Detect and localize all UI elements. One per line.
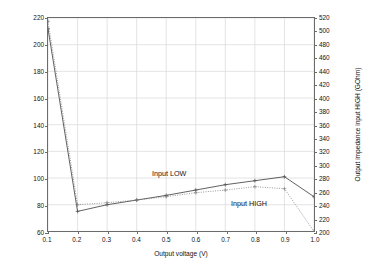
tick-mark	[256, 231, 257, 234]
tick-mark	[314, 152, 317, 153]
tick-mark	[45, 45, 48, 46]
y-tick-right-label: 280	[319, 175, 330, 182]
tick-mark	[314, 99, 317, 100]
data-point-marker	[135, 198, 139, 202]
x-tick-label: 1.0	[311, 236, 320, 243]
tick-mark	[314, 85, 317, 86]
plot-area	[47, 17, 315, 232]
y-tick-left-label: 180	[33, 67, 44, 74]
y-axis-left-ticks: 6080100120140160180200220	[20, 17, 44, 232]
y-tick-left-label: 160	[33, 94, 44, 101]
data-point-marker	[253, 185, 257, 189]
y-tick-right-label: 340	[319, 134, 330, 141]
tick-mark	[78, 231, 79, 234]
x-tick-label: 0.2	[72, 236, 81, 243]
tick-mark	[314, 126, 317, 127]
y-tick-right-label: 360	[319, 121, 330, 128]
x-tick-label: 0.6	[191, 236, 200, 243]
tick-mark	[45, 99, 48, 100]
x-tick-label: 0.1	[43, 236, 52, 243]
tick-mark	[45, 18, 48, 19]
series-input-high	[48, 19, 314, 231]
tick-mark	[314, 220, 317, 221]
data-point-marker	[223, 188, 227, 192]
x-tick-label: 0.9	[281, 236, 290, 243]
y-tick-right-label: 260	[319, 188, 330, 195]
y-tick-right-label: 400	[319, 94, 330, 101]
tick-mark	[227, 231, 228, 234]
x-tick-label: 0.4	[132, 236, 141, 243]
y-tick-left-label: 60	[37, 229, 44, 236]
tick-mark	[167, 231, 168, 234]
y-tick-right-label: 240	[319, 202, 330, 209]
data-point-marker	[253, 179, 257, 183]
tick-mark	[314, 58, 317, 59]
tick-mark	[286, 231, 287, 234]
y-tick-right-label: 320	[319, 148, 330, 155]
x-tick-label: 0.3	[102, 236, 111, 243]
y-tick-right-label: 380	[319, 108, 330, 115]
x-tick-label: 0.7	[221, 236, 230, 243]
series-annotation-input-low: Input LOW	[152, 169, 186, 178]
y-tick-left-label: 80	[37, 202, 44, 209]
y-tick-left-label: 100	[33, 175, 44, 182]
tick-mark	[314, 179, 317, 180]
series-input-low	[48, 27, 314, 213]
tick-mark	[48, 231, 49, 234]
tick-mark	[314, 206, 317, 207]
y-tick-right-label: 300	[319, 161, 330, 168]
data-point-marker	[194, 191, 198, 195]
tick-mark	[45, 126, 48, 127]
data-point-marker	[76, 209, 80, 213]
tick-mark	[314, 139, 317, 140]
tick-mark	[197, 231, 198, 234]
y-tick-right-label: 520	[319, 14, 330, 21]
x-axis-ticks: 0.10.20.30.40.50.60.70.80.91.0	[47, 236, 315, 248]
y-tick-left-label: 140	[33, 121, 44, 128]
tick-mark	[314, 31, 317, 32]
y-axis-right-ticks: 2002202402602803003203403603804004204404…	[319, 17, 345, 232]
tick-mark	[314, 193, 317, 194]
tick-mark	[45, 72, 48, 73]
y-tick-right-label: 200	[319, 229, 330, 236]
tick-mark	[108, 231, 109, 234]
tick-mark	[314, 72, 317, 73]
data-point-marker	[105, 201, 109, 205]
data-series-layer	[48, 18, 314, 231]
y-tick-right-label: 420	[319, 81, 330, 88]
tick-mark	[316, 231, 317, 234]
y-tick-right-label: 220	[319, 215, 330, 222]
x-tick-label: 0.5	[162, 236, 171, 243]
tick-mark	[45, 152, 48, 153]
x-axis-title: Output voltage (V)	[47, 250, 315, 257]
y-tick-left-label: 200	[33, 40, 44, 47]
data-point-marker	[223, 183, 227, 187]
y-tick-right-label: 480	[319, 40, 330, 47]
tick-mark	[314, 45, 317, 46]
chart-figure: Output impedance input LOW (GOhm) Output…	[0, 0, 371, 276]
y-tick-left-label: 120	[33, 148, 44, 155]
y-tick-left-label: 220	[33, 14, 44, 21]
tick-mark	[45, 206, 48, 207]
y-axis-right-title: Output impedance input HIGH (GOhm)	[353, 17, 371, 232]
series-annotation-input-high: Input HIGH	[231, 199, 267, 208]
y-tick-right-label: 500	[319, 27, 330, 34]
tick-mark	[137, 231, 138, 234]
data-point-marker	[48, 19, 50, 23]
y-tick-right-label: 460	[319, 54, 330, 61]
y-tick-right-label: 440	[319, 67, 330, 74]
tick-mark	[314, 18, 317, 19]
tick-mark	[314, 112, 317, 113]
tick-mark	[314, 166, 317, 167]
x-tick-label: 0.8	[251, 236, 260, 243]
tick-mark	[45, 179, 48, 180]
